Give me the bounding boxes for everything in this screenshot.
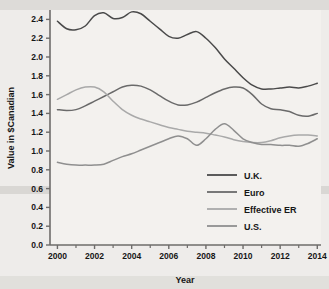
x-axis-title: Year: [175, 275, 195, 285]
x-axis-tick-label: 2006: [159, 251, 178, 261]
x-axis-tick-label: 2000: [48, 251, 67, 261]
x-axis-tick-label: 2002: [85, 251, 104, 261]
y-axis-tick-label: 2.4: [31, 14, 43, 24]
y-axis-tick-label: 2.0: [31, 52, 43, 62]
x-axis-tick-label: 2014: [308, 251, 327, 261]
chart-svg: 0.00.20.40.60.81.01.21.41.61.82.02.22.4 …: [0, 0, 329, 289]
y-axis-tick-label: 1.2: [31, 127, 43, 137]
y-axis-tick-label: 0.4: [31, 202, 43, 212]
x-axis-tick-label: 2004: [122, 251, 141, 261]
x-axis-tick-label: 2012: [271, 251, 290, 261]
y-axis-title: Value in $Canadian: [6, 87, 16, 169]
legend-label-effective-er: Effective ER: [244, 205, 297, 215]
y-axis-tick-label: 0.6: [31, 184, 43, 194]
y-axis-tick-label: 1.4: [31, 108, 43, 118]
legend-label-euro: Euro: [244, 188, 265, 198]
y-axis-tick-label: 1.0: [31, 146, 43, 156]
y-axis-tick-label: 0.2: [31, 221, 43, 231]
legend-label-u-k: U.K.: [244, 171, 262, 181]
y-axis-tick-labels: 0.00.20.40.60.81.01.21.41.61.82.02.22.4: [31, 14, 43, 250]
chart-page: 0.00.20.40.60.81.01.21.41.61.82.02.22.4 …: [0, 0, 329, 289]
y-axis-tick-label: 0.0: [31, 240, 43, 250]
y-axis-tick-label: 2.2: [31, 33, 43, 43]
x-axis-tick-label: 2010: [234, 251, 253, 261]
y-axis-tick-label: 1.8: [31, 71, 43, 81]
y-axis-tick-label: 0.8: [31, 165, 43, 175]
x-axis-tick-labels: 20002002200420062008201020122014: [48, 251, 327, 261]
x-axis-tick-label: 2008: [196, 251, 215, 261]
legend-label-u-s: U.S.: [244, 222, 262, 232]
line-chart: 0.00.20.40.60.81.01.21.41.61.82.02.22.4 …: [0, 0, 329, 289]
y-axis-tick-label: 1.6: [31, 90, 43, 100]
